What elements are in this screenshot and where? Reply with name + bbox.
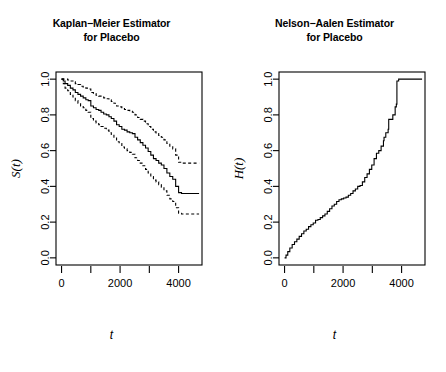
x-axis-label-left: t	[0, 328, 223, 342]
x-tick-label: 2000	[108, 277, 132, 289]
y-tick-label: 0.2	[39, 214, 51, 229]
y-tick-label: 0.8	[39, 107, 51, 122]
series-lower-confidence-band	[62, 79, 200, 214]
panel-kaplan-meier: Kaplan−Meier Estimator for Placebo 0.00.…	[0, 0, 223, 372]
y-tick-label: 0.2	[262, 214, 274, 229]
y-axis-label-right: H(t)	[231, 158, 246, 181]
figure-two-panel-survival: Kaplan−Meier Estimator for Placebo 0.00.…	[0, 0, 446, 372]
y-axis-label-left: S(t)	[8, 159, 23, 178]
y-tick-label: 0.6	[262, 143, 274, 158]
x-axis-label-right: t	[223, 328, 446, 342]
y-tick-label: 0.6	[39, 143, 51, 158]
plot-area-kaplan-meier: 0.00.20.40.60.81.0020004000S(t)	[0, 0, 223, 372]
x-tick-label: 0	[281, 277, 287, 289]
x-tick-label: 4000	[389, 277, 413, 289]
series-upper-confidence-band	[62, 79, 200, 163]
y-tick-label: 0.4	[39, 179, 51, 194]
x-tick-label: 2000	[331, 277, 355, 289]
series-survival-estimate	[62, 79, 200, 193]
y-tick-label: 0.0	[262, 250, 274, 265]
y-tick-label: 0.4	[262, 179, 274, 194]
y-tick-label: 1.0	[39, 71, 51, 86]
panel-nelson-aalen: Nelson−Aalen Estimator for Placebo 0.00.…	[223, 0, 446, 372]
y-tick-label: 1.0	[262, 71, 274, 86]
plot-area-nelson-aalen: 0.00.20.40.60.81.0020004000H(t)	[223, 0, 446, 372]
y-tick-label: 0.8	[262, 107, 274, 122]
x-tick-label: 4000	[166, 277, 190, 289]
series-cumulative-hazard	[285, 79, 423, 258]
x-tick-label: 0	[58, 277, 64, 289]
y-tick-label: 0.0	[39, 250, 51, 265]
